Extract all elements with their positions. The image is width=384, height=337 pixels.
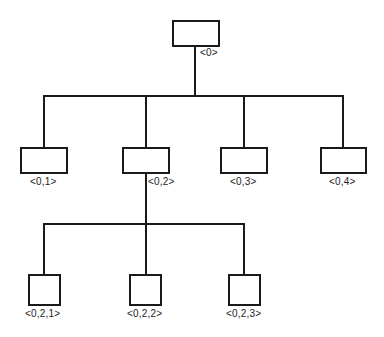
- connector-drop-n04: [342, 95, 344, 148]
- tree-node-n03: [220, 147, 268, 174]
- node-label-n023: <0,2,3>: [226, 308, 261, 319]
- connector-root-stem: [194, 46, 196, 96]
- node-label-n022: <0,2,2>: [127, 308, 162, 319]
- connector-level1-bus: [43, 95, 344, 97]
- connector-drop-n01: [43, 95, 45, 148]
- node-label-n02: <0,2>: [148, 176, 175, 187]
- tree-diagram: <0><0,1><0,2><0,3><0,4><0,2,1><0,2,2><0,…: [0, 0, 384, 337]
- tree-node-n01: [20, 147, 68, 174]
- node-label-n021: <0,2,1>: [25, 308, 60, 319]
- connector-drop-n03: [243, 95, 245, 148]
- connector-drop-n021: [43, 223, 45, 275]
- node-label-n01: <0,1>: [30, 176, 57, 187]
- node-label-root: <0>: [200, 47, 218, 58]
- tree-node-n04: [320, 147, 367, 174]
- tree-node-root: [172, 20, 220, 47]
- node-label-n03: <0,3>: [230, 176, 257, 187]
- tree-node-n022: [129, 274, 162, 306]
- connector-level2-bus: [43, 223, 245, 225]
- connector-drop-n023: [243, 223, 245, 275]
- connector-drop-n02: [145, 95, 147, 148]
- connector-n02-stem: [145, 173, 147, 225]
- tree-node-n021: [28, 274, 61, 306]
- tree-node-n023: [228, 274, 261, 306]
- connector-drop-n022: [145, 223, 147, 275]
- tree-node-n02: [122, 147, 170, 174]
- node-label-n04: <0,4>: [329, 176, 356, 187]
